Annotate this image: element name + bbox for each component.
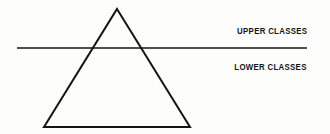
upper-classes-label: UPPER CLASSES: [237, 27, 307, 36]
class-pyramid-triangle: [44, 9, 190, 127]
diagram-canvas: UPPER CLASSES LOWER CLASSES: [0, 0, 330, 134]
lower-classes-label: LOWER CLASSES: [235, 63, 307, 72]
